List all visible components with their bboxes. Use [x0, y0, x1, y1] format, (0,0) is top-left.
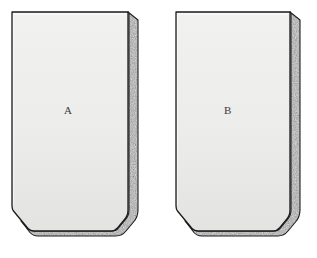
shape-b-label: B — [224, 105, 232, 116]
shape-b-face — [176, 12, 290, 231]
shapes-illustration — [0, 0, 317, 258]
figure-canvas: A B — [0, 0, 317, 258]
shape-a-face — [12, 12, 128, 231]
shape-a-label: A — [64, 105, 72, 116]
